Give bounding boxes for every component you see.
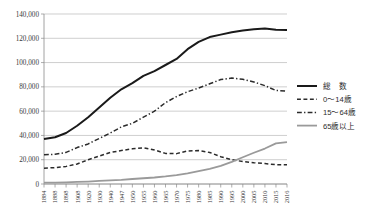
x-tick-label: 2005 <box>250 191 257 204</box>
ytick-labels: 020,00040,00060,00080,000100,000120,0001… <box>16 11 44 189</box>
xtick-labels: 1884188818981908192019301940194719501955… <box>40 190 290 204</box>
x-tick-label: 1960 <box>151 191 158 204</box>
x-tick-label: 1980 <box>195 191 202 204</box>
series-line-0 <box>44 29 287 140</box>
y-tick-label: 20,000 <box>19 156 39 164</box>
x-tick-label: 1884 <box>40 190 47 204</box>
x-tick-label: 1955 <box>140 191 147 204</box>
x-tick-label: 2016 <box>283 191 290 204</box>
y-tick-label: 140,000 <box>16 11 40 19</box>
x-tick-label: 1995 <box>228 191 235 204</box>
y-tick-label: 100,000 <box>16 59 40 67</box>
x-tick-label: 1908 <box>74 191 81 204</box>
chart-canvas: 020,00040,00060,00080,000100,000120,0001… <box>0 0 378 220</box>
x-tick-label: 2015 <box>272 191 279 204</box>
x-tick-label: 1930 <box>96 191 103 204</box>
x-tick-label: 1920 <box>85 191 92 204</box>
legend-item-2[interactable]: 15〜64歳 <box>297 107 356 117</box>
line-chart: 020,00040,00060,00080,000100,000120,0001… <box>0 0 378 220</box>
x-tick-label: 1888 <box>51 191 58 204</box>
y-tick-label: 40,000 <box>19 132 39 140</box>
x-tick-label: 1950 <box>129 191 136 204</box>
x-tick-label: 1975 <box>184 191 191 204</box>
series-line-1 <box>44 148 287 168</box>
grid-layer <box>44 14 287 184</box>
x-tick-label: 1990 <box>217 191 224 204</box>
x-tick-label: 1985 <box>206 191 213 204</box>
x-tick-label: 1965 <box>162 191 169 204</box>
legend-item-3[interactable]: 65歳以上 <box>297 121 355 131</box>
legend-label-2: 15〜64歳 <box>323 107 356 117</box>
x-tick-label: 1898 <box>62 191 69 204</box>
x-tick-label: 1970 <box>173 191 180 204</box>
y-tick-label: 120,000 <box>16 35 40 43</box>
xtick-marks <box>44 184 287 188</box>
series-line-3 <box>44 142 287 183</box>
legend-label-1: 0〜14歳 <box>323 94 352 104</box>
x-tick-label: 2010 <box>261 191 268 204</box>
legend-label-0: 総 数 <box>323 81 347 91</box>
axes-layer <box>44 14 287 184</box>
y-tick-label: 60,000 <box>19 108 39 116</box>
x-tick-label: 1940 <box>107 191 114 204</box>
legend-label-3: 65歳以上 <box>323 121 355 131</box>
legend-item-1[interactable]: 0〜14歳 <box>297 94 352 104</box>
series-line-2 <box>44 78 287 155</box>
legend-item-0[interactable]: 総 数 <box>297 81 347 91</box>
legend: 総 数0〜14歳15〜64歳65歳以上 <box>297 81 356 131</box>
y-tick-label: 0 <box>35 181 39 189</box>
y-tick-label: 80,000 <box>19 83 39 91</box>
x-tick-label: 1947 <box>118 190 125 204</box>
x-tick-label: 2000 <box>239 191 246 204</box>
